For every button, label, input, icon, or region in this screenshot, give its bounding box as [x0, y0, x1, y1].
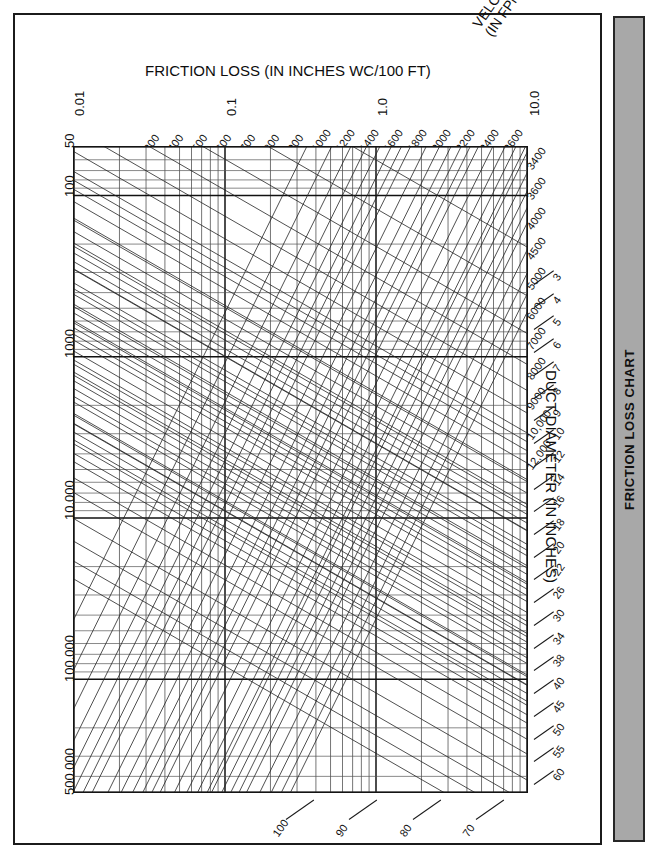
chart-plot-area[interactable] [73, 146, 528, 793]
side-tab-label: FRICTION LOSS CHART [622, 349, 637, 510]
side-tab[interactable]: FRICTION LOSS CHART [613, 16, 645, 842]
friction-tick-0: 0.01 [72, 91, 87, 116]
chart-grid [74, 147, 527, 792]
friction-tick-1: 0.1 [224, 98, 239, 116]
friction-tick-3: 10.0 [527, 91, 542, 116]
friction-axis-title: FRICTION LOSS (IN INCHES WC/100 FT) [145, 62, 431, 79]
chart-page: FRICTION LOSS CHART FRICTION LOSS (IN IN… [0, 0, 653, 862]
friction-tick-2: 1.0 [375, 98, 390, 116]
